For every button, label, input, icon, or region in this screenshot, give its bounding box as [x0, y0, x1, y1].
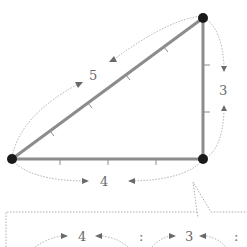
- ratio-row: 4 : 3 :: [35, 229, 238, 247]
- arrow-icon: [61, 233, 68, 239]
- horizontal-leg-label: 4: [100, 174, 108, 189]
- arrow-icon: [169, 233, 176, 239]
- ratio-value-3: 3: [185, 229, 193, 244]
- ratio-value-4: 4: [78, 229, 86, 244]
- vertical-leg-label: 3: [219, 83, 227, 98]
- arrow-icon: [128, 178, 135, 184]
- hypotenuse-measure-arc: 5: [12, 16, 203, 157]
- vertical-leg-measure-arc: 3: [204, 18, 227, 159]
- arrow-icon: [221, 105, 227, 111]
- vertex-bottom-right: [198, 154, 208, 164]
- arrow-icon: [95, 233, 102, 239]
- hypotenuse-side: [12, 18, 203, 159]
- ratio-callout: [6, 182, 247, 247]
- vertex-bottom-left: [7, 154, 17, 164]
- hypotenuse-ticks: [50, 47, 168, 136]
- triangle-diagram: 5 3 4 4 : 3 :: [0, 0, 247, 247]
- ratio-separator: :: [139, 229, 143, 244]
- hypotenuse-label: 5: [89, 68, 97, 83]
- arrow-icon: [221, 66, 227, 72]
- ratio-separator: :: [234, 229, 238, 244]
- vertex-top-right: [198, 13, 208, 23]
- arrow-icon: [109, 56, 117, 62]
- arrow-icon: [199, 233, 206, 239]
- arrow-icon: [82, 178, 89, 184]
